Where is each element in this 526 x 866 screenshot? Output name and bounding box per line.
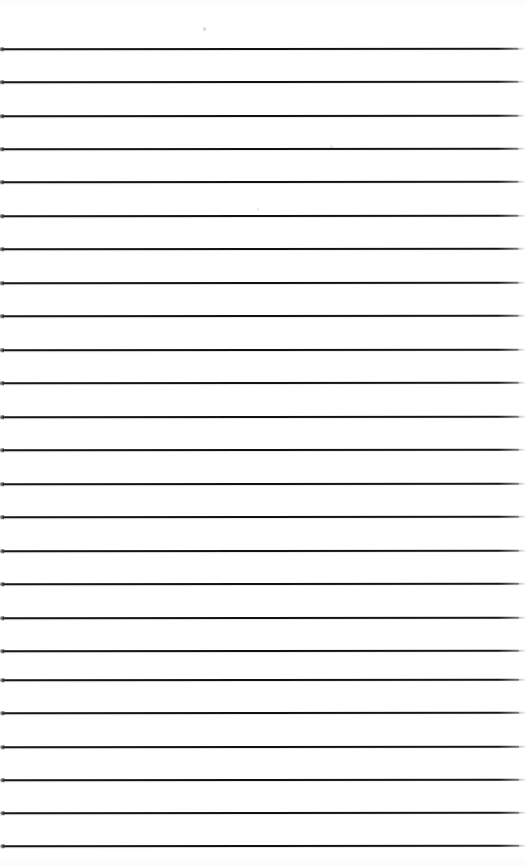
ruled-line <box>0 481 526 488</box>
ruled-line-left-nub <box>0 181 4 184</box>
ruled-line-right-fade <box>519 712 526 714</box>
ruled-line <box>0 810 526 817</box>
ruled-line-right-fade <box>519 449 526 451</box>
ruled-line-halo <box>0 82 519 84</box>
ruled-line <box>0 146 526 153</box>
ruled-line-left-nub <box>0 449 4 452</box>
ruled-line <box>0 347 526 354</box>
ruled-line-left-nub <box>0 779 4 782</box>
ruled-line-halo <box>0 484 519 486</box>
ruled-line-stroke <box>0 583 519 586</box>
ruled-line-stroke <box>0 248 519 251</box>
ruled-line-stroke <box>0 115 519 118</box>
ruled-line-stroke <box>0 148 519 151</box>
ruled-line <box>0 414 526 421</box>
ruled-line-stroke <box>0 712 519 715</box>
ruled-line <box>0 648 526 655</box>
ruled-line-right-fade <box>519 583 526 585</box>
ruled-line-left-nub <box>0 746 4 749</box>
ruled-line-left-nub <box>0 483 4 486</box>
ruled-line <box>0 710 526 717</box>
ruled-line <box>0 313 526 320</box>
ruled-line <box>0 744 526 751</box>
ruled-line-left-nub <box>0 315 4 318</box>
ruled-line-halo <box>0 780 519 782</box>
ruled-line-halo <box>0 551 519 553</box>
ruled-line-left-nub <box>0 148 4 151</box>
ruled-line-right-fade <box>519 349 526 351</box>
ruled-line-stroke <box>0 746 519 749</box>
ruled-line-stroke <box>0 48 519 51</box>
ruled-line-halo <box>0 149 519 151</box>
ruled-line-right-fade <box>519 148 526 150</box>
ruled-line-left-nub <box>0 712 4 715</box>
ruled-line <box>0 179 526 186</box>
ruled-line <box>0 246 526 253</box>
ruled-line-stroke <box>0 550 519 553</box>
ruled-line <box>0 213 526 220</box>
ruled-line-right-fade <box>519 315 526 317</box>
ruled-line-right-fade <box>519 746 526 748</box>
ruled-line-right-fade <box>519 650 526 652</box>
ruled-line-halo <box>0 747 519 749</box>
ruled-line-halo <box>0 618 519 620</box>
ruled-line-right-fade <box>519 779 526 781</box>
ruled-line-right-fade <box>519 248 526 250</box>
ruled-line <box>0 777 526 784</box>
ruled-line <box>0 677 526 684</box>
ruled-line-right-fade <box>519 679 526 681</box>
ruled-line-left-nub <box>0 81 4 84</box>
ruled-line-right-fade <box>519 550 526 552</box>
ruled-line-right-fade <box>519 115 526 117</box>
ruled-line-stroke <box>0 516 519 519</box>
ruled-line-halo <box>0 680 519 682</box>
ruled-line-stroke <box>0 812 519 815</box>
ruled-line-right-fade <box>519 812 526 814</box>
ruled-line-right-fade <box>519 181 526 183</box>
ruled-line-halo <box>0 116 519 118</box>
ruled-line-left-nub <box>0 416 4 419</box>
ruled-line-halo <box>0 713 519 715</box>
ruled-line-left-nub <box>0 679 4 682</box>
ruled-line-stroke <box>0 483 519 486</box>
ruled-line-left-nub <box>0 583 4 586</box>
ruled-line-halo <box>0 49 519 51</box>
ruled-line-right-fade <box>519 81 526 83</box>
scanned-page <box>0 0 526 866</box>
ruled-line-halo <box>0 249 519 251</box>
ruled-line-right-fade <box>519 845 526 847</box>
ruled-line-left-nub <box>0 617 4 620</box>
ruled-line-stroke <box>0 181 519 184</box>
ruled-line <box>0 113 526 120</box>
ruled-line-halo <box>0 316 519 318</box>
ruled-line-left-nub <box>0 48 4 51</box>
ruled-line <box>0 843 526 850</box>
ruled-line-stroke <box>0 215 519 218</box>
ruled-line-stroke <box>0 650 519 653</box>
ruled-line-right-fade <box>519 617 526 619</box>
ruled-line-halo <box>0 216 519 218</box>
ruled-line <box>0 79 526 86</box>
ruled-line-stroke <box>0 315 519 318</box>
ruled-line-halo <box>0 584 519 586</box>
ruled-line-right-fade <box>519 48 526 50</box>
ruled-line-left-nub <box>0 215 4 218</box>
ruled-line-stroke <box>0 845 519 848</box>
ruled-line-left-nub <box>0 650 4 653</box>
ruled-line-stroke <box>0 282 519 285</box>
ruled-line-right-fade <box>519 215 526 217</box>
ruled-line-halo <box>0 846 519 848</box>
ruled-line-halo <box>0 383 519 385</box>
ruled-line-right-fade <box>519 416 526 418</box>
ruled-line-halo <box>0 350 519 352</box>
ruled-line-right-fade <box>519 382 526 384</box>
ruled-line-right-fade <box>519 516 526 518</box>
ruled-line <box>0 280 526 287</box>
ruled-line-right-fade <box>519 282 526 284</box>
ruled-line-stroke <box>0 382 519 385</box>
ruled-line-left-nub <box>0 115 4 118</box>
ruled-line-right-fade <box>519 483 526 485</box>
ruled-line-stroke <box>0 349 519 352</box>
ruled-line <box>0 581 526 588</box>
ruled-line-left-nub <box>0 248 4 251</box>
